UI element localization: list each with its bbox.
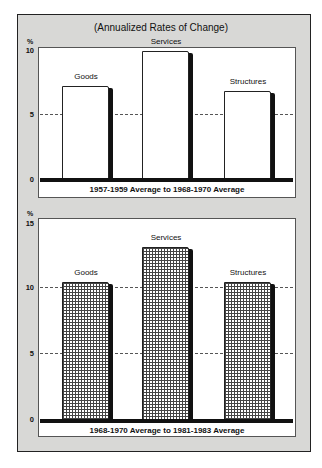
top-label-services: Services [131, 37, 201, 46]
top-bar-structures [224, 91, 271, 179]
bottom-tick-10: 10 [20, 283, 34, 292]
bottom-tick-5: 5 [20, 349, 34, 358]
top-zero-axis [40, 178, 293, 182]
bottom-tick-0: 0 [20, 415, 34, 424]
bottom-label-structures: Structures [213, 268, 283, 277]
bottom-bar-structures [224, 282, 271, 420]
bottom-tick-15: 15 [20, 219, 34, 228]
bottom-subtitle: 1968-1970 Average to 1981-1983 Average [38, 426, 296, 435]
top-label-structures: Structures [213, 77, 283, 86]
top-bar-services [142, 51, 189, 179]
top-subtitle: 1957-1959 Average to 1968-1970 Average [38, 185, 296, 194]
bottom-zero-axis [40, 419, 293, 423]
bottom-bar-goods [62, 282, 109, 420]
bottom-label-services: Services [131, 233, 201, 242]
chart-title: (Annualized Rates of Change) [0, 22, 322, 33]
top-label-goods: Goods [51, 72, 121, 81]
top-tick-10: 10 [20, 46, 34, 55]
bottom-label-goods: Goods [51, 268, 121, 277]
bottom-bar-services [142, 247, 189, 420]
top-unit-label: % [27, 38, 33, 45]
top-tick-0: 0 [20, 175, 34, 184]
top-bar-goods [62, 86, 109, 179]
top-tick-5: 5 [20, 110, 34, 119]
bottom-unit-label: % [27, 210, 33, 217]
